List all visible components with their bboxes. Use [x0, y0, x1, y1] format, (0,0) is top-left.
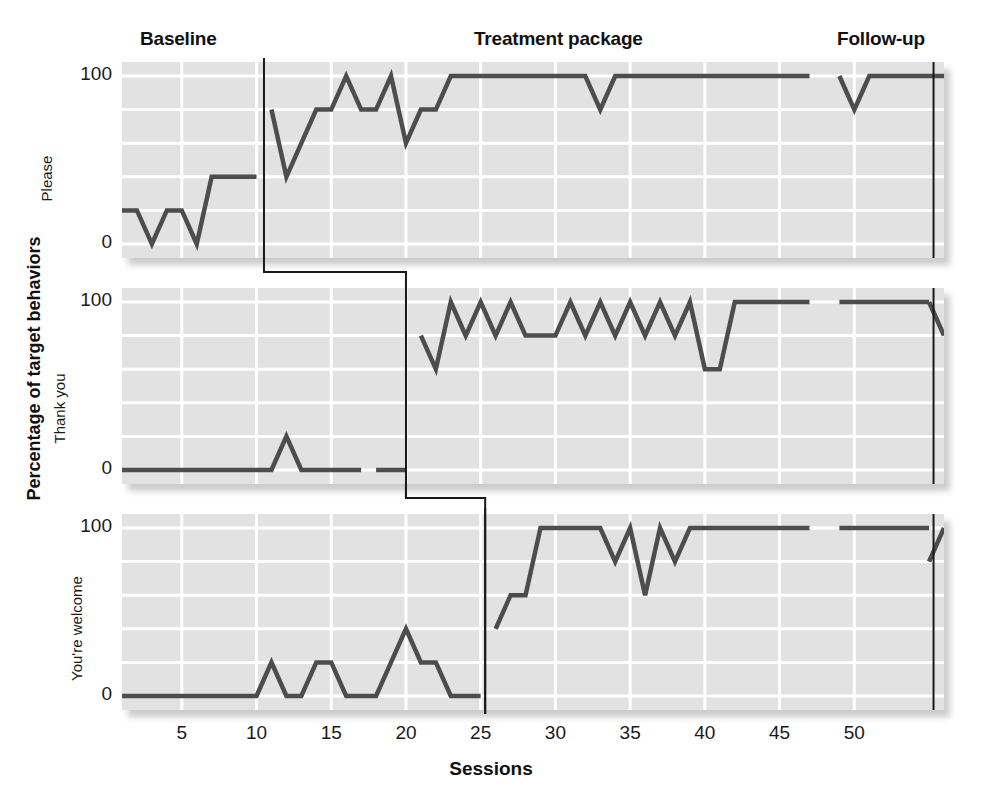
y-tick-100: 100 [66, 63, 112, 85]
y-axis-label: Percentage of target behaviors [24, 261, 45, 501]
panel-please [122, 62, 944, 258]
y-tick-0: 0 [66, 683, 112, 705]
panel-you-re-welcome [122, 514, 944, 710]
phase-label-baseline: Baseline [140, 28, 217, 50]
phase-label-treatment: Treatment package [474, 28, 643, 50]
x-tick-10: 10 [237, 722, 277, 744]
y-tick-0: 0 [66, 231, 112, 253]
data-line [122, 436, 361, 470]
y-tick-100: 100 [66, 515, 112, 537]
x-tick-35: 35 [610, 722, 650, 744]
x-tick-50: 50 [834, 722, 874, 744]
y-tick-0: 0 [66, 457, 112, 479]
panel-label-3: You're welcome [68, 576, 85, 681]
x-tick-45: 45 [760, 722, 800, 744]
x-tick-5: 5 [162, 722, 202, 744]
y-tick-100: 100 [66, 289, 112, 311]
multiple-baseline-chart: Baseline Treatment package Follow-up Per… [0, 0, 982, 788]
x-tick-25: 25 [461, 722, 501, 744]
panel-label-1: Please [38, 156, 55, 202]
data-line [929, 302, 944, 336]
x-tick-20: 20 [386, 722, 426, 744]
x-tick-15: 15 [311, 722, 351, 744]
x-axis-label: Sessions [0, 758, 982, 780]
x-tick-40: 40 [685, 722, 725, 744]
phase-label-followup: Follow-up [837, 28, 925, 50]
data-line [496, 528, 810, 629]
data-line [271, 76, 809, 177]
panel-thank-you [122, 288, 944, 484]
panel-label-2: Thank you [51, 373, 68, 443]
x-tick-30: 30 [535, 722, 575, 744]
data-line [929, 528, 944, 562]
